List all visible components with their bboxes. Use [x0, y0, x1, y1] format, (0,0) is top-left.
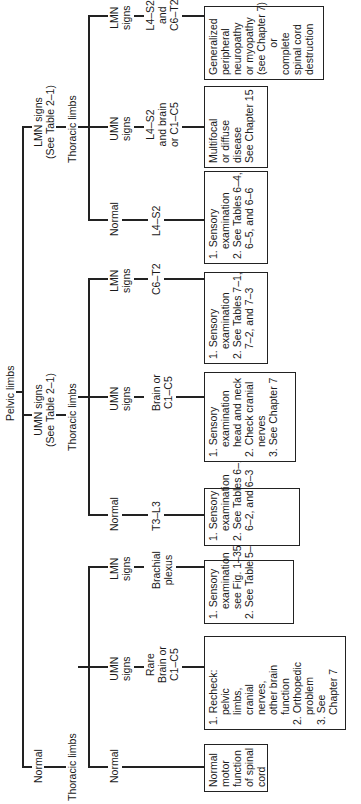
- c-ul: [134, 279, 148, 281]
- c-ll: [134, 16, 144, 18]
- b-nn-drop: [88, 767, 108, 769]
- rc-lu: [182, 127, 204, 129]
- l1-umn-drop: [22, 415, 32, 417]
- region-lu: L4–S2and brainor C1–C5: [144, 101, 180, 148]
- sign-ll: LMNsigns: [108, 4, 132, 31]
- l1-normal-drop: [22, 767, 32, 769]
- rc-nu: [182, 667, 204, 669]
- l1-normal-label: Normal: [32, 748, 44, 784]
- b-uu-drop: [78, 397, 108, 399]
- b-ul-drop: [88, 279, 108, 281]
- thoracic-label-normal: Thoracic limbs: [66, 732, 78, 802]
- outcome-box-brachial: 1. Sensoryexaminationsee Fig. 1–352. See…: [204, 560, 294, 624]
- outcome-box-t3l3: 1. Sensoryexamination2. See Tables 6–1,6…: [204, 488, 300, 546]
- l1-lmn-drop: [22, 127, 32, 129]
- sign-ul: LMNsigns: [108, 267, 132, 294]
- l1-normal-conn: [44, 767, 66, 769]
- c-nu: [134, 667, 144, 669]
- l1-umn-conn: [56, 415, 66, 417]
- outcome-box-multifocal: Multifocalor diffusediseaseSee Chapter 1…: [204, 86, 268, 168]
- b-ln-drop: [88, 220, 108, 222]
- b-nl-drop: [88, 567, 108, 569]
- sign-uu: UMNsigns: [108, 385, 132, 412]
- l1-lmn-conn: [56, 127, 66, 129]
- sign-nl: LMNsigns: [108, 555, 132, 582]
- outcome-box-l4s2: 1. Sensoryexamination2. See Tables 6–4,6…: [204, 171, 268, 264]
- flowchart-rotated: Pelvic limbs Normal UMN signs(See Table …: [0, 0, 361, 804]
- b-ll-drop: [88, 16, 108, 18]
- root-label: Pelvic limbs: [4, 365, 16, 422]
- sign-nu: UMNsigns: [108, 655, 132, 682]
- region-nu: RareBrain orC1–C5: [144, 645, 180, 684]
- region-un: T3–L3: [150, 500, 162, 532]
- region-uu: Brain orC1–C5: [150, 373, 174, 412]
- rc-nl: [176, 567, 204, 569]
- b-un-drop: [88, 515, 108, 517]
- b-nu-drop: [78, 667, 108, 669]
- rc-uu: [176, 397, 204, 399]
- sign-nn: Normal: [108, 748, 120, 784]
- l1-lmn-label: LMN signs(See Table 2–1): [32, 84, 56, 160]
- region-ll: L4–S2andC6–T2: [144, 0, 180, 32]
- b-lu-drop: [78, 127, 108, 129]
- outcome-box-recheck: 1. Recheck:pelviclimbs,cranialnerves,oth…: [204, 636, 346, 730]
- thoracic-lmn-line: [88, 16, 90, 221]
- thoracic-label-lmn: Thoracic limbs: [66, 94, 78, 164]
- outcome-box-c6t2: 1. Sensoryexamination2. See Tables 7–1,7…: [204, 272, 268, 364]
- rc-ll: [182, 16, 204, 18]
- rc-ln: [164, 220, 204, 222]
- c-ln: [122, 220, 148, 222]
- outcome-box-normal-motor: Normalmotorfunctionof spinalcord: [204, 744, 268, 792]
- sign-ln: Normal: [108, 201, 120, 237]
- region-ln: L4–S2: [150, 205, 162, 237]
- sign-lu: UMNsigns: [108, 115, 132, 142]
- c-un: [122, 515, 148, 517]
- c-uu: [134, 397, 144, 399]
- rc-ul: [164, 279, 204, 281]
- root-trunk-line: [22, 127, 24, 768]
- c-nn: [122, 767, 204, 769]
- rc-un: [164, 515, 204, 517]
- c-lu: [134, 127, 144, 129]
- region-ul: C6–T2: [150, 262, 162, 296]
- outcome-box-brain-c1c5: 1. Sensoryexaminationhead and neck2. Che…: [204, 372, 296, 462]
- sign-un: Normal: [108, 496, 120, 532]
- root-drop-line: [16, 392, 23, 394]
- thoracic-label-umn: Thoracic limbs: [66, 382, 78, 452]
- region-nl: Brachialplexus: [150, 550, 174, 590]
- c-nl: [134, 567, 144, 569]
- outcome-box-generalized: Generalizedperipheralneuropathyor myopat…: [204, 6, 324, 80]
- l1-umn-label: UMN signs(See Table 2–1): [32, 372, 56, 448]
